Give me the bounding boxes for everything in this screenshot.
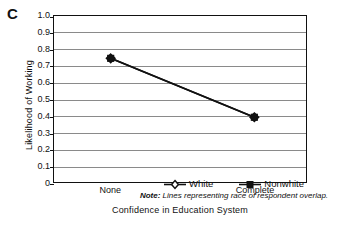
plot-area: White Nonwhite Note: Lines representing … [53, 15, 307, 183]
plot-inner [54, 16, 306, 182]
chart-figure: C Likelihood of Working 00.10.20.30.40.5… [0, 0, 353, 230]
data-point-marker [251, 114, 257, 120]
y-axis-tick-label: 0.3 [24, 128, 50, 137]
y-axis-tick-label: 0.8 [24, 44, 50, 53]
series-nonwhite [108, 55, 258, 120]
y-axis-tick-label: 0 [24, 179, 50, 188]
series-line [111, 58, 255, 117]
y-axis-tick-label: 0.6 [24, 78, 50, 87]
y-axis-tick-label: 0.7 [24, 61, 50, 70]
y-axis-tick [50, 184, 54, 185]
x-axis-title: Confidence in Education System [53, 205, 307, 215]
y-axis-tick-label: 0.2 [24, 145, 50, 154]
y-axis-tick-label: 0.4 [24, 111, 50, 120]
y-axis-tick-labels: 00.10.20.30.40.50.60.70.80.91.0 [24, 15, 50, 183]
x-axis-tick-label: Complete [236, 186, 275, 195]
data-point-marker [108, 55, 114, 61]
x-axis-tick-labels: NoneComplete [53, 186, 307, 200]
series-layer [54, 16, 306, 182]
y-axis-tick-label: 0.1 [24, 162, 50, 171]
x-axis-tick-label: None [99, 186, 121, 195]
panel-label: C [7, 6, 18, 21]
y-axis-tick-label: 0.9 [24, 27, 50, 36]
y-axis-tick-label: 0.5 [24, 95, 50, 104]
y-axis-tick-label: 1.0 [24, 11, 50, 20]
